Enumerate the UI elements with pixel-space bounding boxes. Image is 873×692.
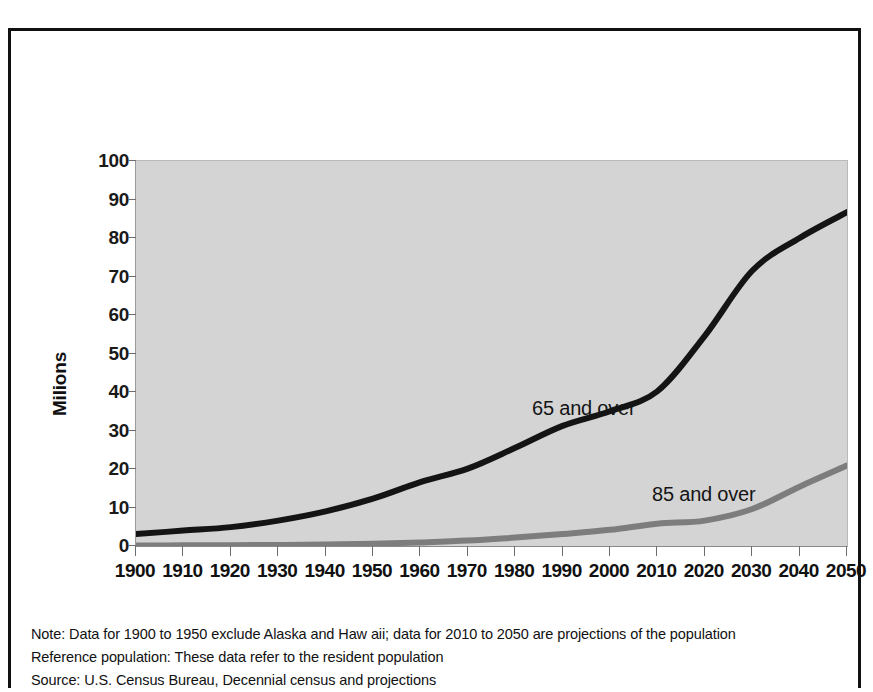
footnote-line: Note: Data for 1900 to 1950 exclude Alas… [31,623,861,646]
y-axis-tick-label: 50 [85,344,129,363]
x-axis-tick-mark [514,546,515,556]
x-axis-tick-mark [182,546,183,556]
series-annotation-65-and-over: 65 and over [532,397,635,420]
x-axis-tick-mark [419,546,420,556]
y-axis-tick-label: 60 [85,305,129,324]
y-axis-tick-label: 20 [85,459,129,478]
y-axis-tick-mark [129,199,136,200]
x-axis-tick-mark [609,546,610,556]
y-axis-title-text: Milions [49,352,71,416]
x-axis-tick-mark [846,546,847,556]
y-axis-tick-mark [129,237,136,238]
x-axis-ticks [135,546,848,558]
x-axis-tick-mark [562,546,563,556]
y-axis-tick-mark [129,507,136,508]
footnote-line: Reference population: These data refer t… [31,646,861,669]
y-axis-tick-label: 100 [85,151,129,170]
x-axis-tick-mark [799,546,800,556]
y-axis-tick-mark [129,468,136,469]
y-axis-tick-mark [129,545,136,546]
y-axis-tick-label: 0 [85,536,129,555]
y-axis-tick-label: 70 [85,267,129,286]
x-axis-tick-mark [704,546,705,556]
y-axis-tick-mark [129,391,136,392]
y-axis-tick-mark [129,160,136,161]
y-axis-tick-labels: 1009080706050403020100 [71,160,129,545]
y-axis-tick-mark [129,353,136,354]
x-axis-tick-mark [230,546,231,556]
y-axis-tick-label: 80 [85,228,129,247]
chart-figure: Milions 1009080706050403020100 65 and ov… [11,31,864,591]
x-axis-tick-label: 2050 [815,561,873,580]
x-axis-tick-mark [325,546,326,556]
y-axis-tick-label: 40 [85,382,129,401]
x-axis-tick-labels: 1900191019201930194019501960197019801990… [135,561,848,587]
footnotes-block: Note: Data for 1900 to 1950 exclude Alas… [31,623,861,692]
series-annotation-85-and-over: 85 and over [652,483,755,506]
y-axis-tick-mark [129,430,136,431]
y-axis-tick-label: 30 [85,421,129,440]
x-axis-tick-mark [277,546,278,556]
y-axis-tick-mark [129,314,136,315]
y-axis-tick-mark [129,276,136,277]
y-axis-tick-label: 90 [85,190,129,209]
document-frame: Milions 1009080706050403020100 65 and ov… [8,28,861,688]
x-axis-tick-mark [372,546,373,556]
y-axis-tick-label: 10 [85,498,129,517]
x-axis-tick-mark [656,546,657,556]
x-axis-tick-mark [135,546,136,556]
footnote-line: Source: U.S. Census Bureau, Decennial ce… [31,669,861,692]
x-axis-tick-mark [467,546,468,556]
x-axis-tick-mark [751,546,752,556]
